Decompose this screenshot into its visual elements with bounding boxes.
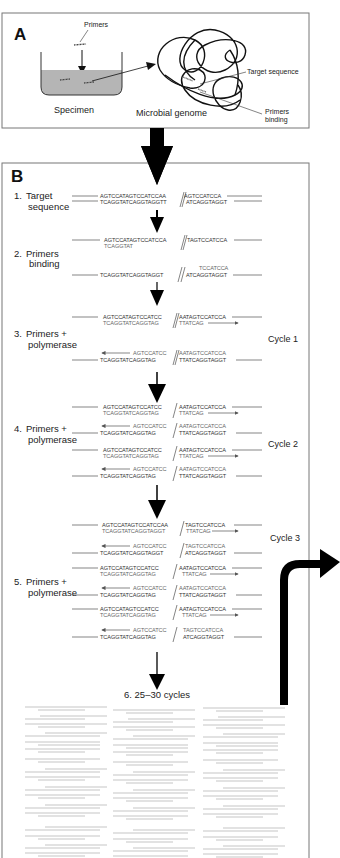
svg-text:TCAGGTATCAGGTAG: TCAGGTATCAGGTAG: [100, 473, 156, 479]
primers-label: Primers: [84, 21, 109, 28]
svg-text:ATCAGGTAGGT: ATCAGGTAGGT: [186, 199, 228, 205]
step-3-label: 3.: [14, 328, 22, 339]
svg-text:TTATCAGGTAGGT: TTATCAGGTAGGT: [179, 592, 227, 598]
svg-text:TCAGGTATCAGGTAG: TCAGGTATCAGGTAG: [100, 430, 156, 436]
step-6-label: 6. 25–30 cycles: [124, 689, 190, 700]
cycle-3-label: Cycle 3: [270, 533, 300, 543]
extension-duplex-rev: AGTCCATCC AATAGTCCATCCA TCAGGTATCAGGTAG …: [72, 350, 262, 365]
svg-text:TCAGGTATCAGGTAGGT: TCAGGTATCAGGTAGGT: [102, 528, 166, 534]
continue-arrow-head: [320, 549, 340, 578]
svg-text:TCAGGTATCAGGTAGGTT: TCAGGTATCAGGTAGGTT: [100, 199, 167, 205]
step-arrow: [150, 290, 164, 306]
svg-text:AGTCCATCC: AGTCCATCC: [133, 466, 167, 472]
svg-text:TTATCAG: TTATCAG: [179, 410, 204, 416]
svg-text:TTATCAGGTAGGT: TTATCAGGTAGGT: [179, 473, 227, 479]
step-4-label: Primers +: [26, 423, 67, 434]
cycle-1-label: Cycle 1: [268, 334, 298, 344]
svg-text:TCAGGTATCAGGTAG: TCAGGTATCAGGTAG: [103, 320, 159, 326]
svg-text:AATAGTCCATCCA: AATAGTCCATCCA: [179, 350, 226, 356]
primer-binding-duplex: AGTCCATAGTCCATCCA TAGTCCATCCA TCAGGTAT T…: [72, 235, 262, 282]
svg-text:TCAGGTATCAGGTAG: TCAGGTATCAGGTAG: [100, 592, 156, 598]
svg-text:TCAGGTATCAGGTAGGT: TCAGGTATCAGGTAGGT: [100, 272, 164, 278]
primers-binding-label: Primers: [265, 108, 290, 115]
svg-text:AATAGTCCATCCA: AATAGTCCATCCA: [179, 423, 226, 429]
target-duplex: AGTCCATAGTCCATCCAA AGTCCATCCA TCAGGTATCA…: [72, 192, 262, 207]
svg-text:TTATCAGGTAGGT: TTATCAGGTAGGT: [179, 357, 227, 363]
target-sequence-label: Target sequence: [247, 68, 299, 76]
step-2-label: 2.: [14, 248, 22, 259]
step-1-label: 1.: [14, 190, 22, 201]
svg-text:TTATCAG: TTATCAG: [179, 320, 204, 326]
break-mark: [180, 192, 184, 207]
svg-text:AGTCCATCC: AGTCCATCC: [133, 543, 167, 549]
step-5-label: 5.: [14, 576, 22, 587]
svg-text:TAGTCCATCCA: TAGTCCATCCA: [187, 237, 227, 243]
cycle-2-label: Cycle 2: [268, 439, 298, 449]
svg-text:TCAGGTATCAGGTAG: TCAGGTATCAGGTAG: [100, 612, 156, 618]
svg-text:TCAGGTATCAGGTAG: TCAGGTATCAGGTAG: [103, 453, 159, 459]
step-3-label: polymerase: [28, 339, 77, 350]
step-arrow: [148, 500, 166, 519]
step-3-label: Primers +: [26, 328, 67, 339]
svg-text:TAGTCCATCCA: TAGTCCATCCA: [185, 543, 225, 549]
step-1-label: Target: [26, 190, 53, 201]
svg-text:TCAGGTATCAGGTAG: TCAGGTATCAGGTAG: [100, 571, 156, 577]
step-4-label: 4.: [14, 423, 22, 434]
step-5-label: Primers +: [26, 576, 67, 587]
svg-text:TCAGGTATCAGGTAGGT: TCAGGTATCAGGTAGGT: [100, 550, 164, 556]
panel-a-label: A: [14, 25, 26, 44]
svg-text:AGTCCATCC: AGTCCATCC: [133, 627, 167, 633]
svg-text:TTATCAGGTAGGT: TTATCAGGTAGGT: [179, 430, 227, 436]
panel-b-label: B: [11, 167, 23, 186]
svg-text:TCAGGTATCAGGTAG: TCAGGTATCAGGTAG: [100, 357, 156, 363]
svg-text:ATCAGGTAGGT: ATCAGGTAGGT: [183, 634, 225, 640]
svg-text:TCCATCCA: TCCATCCA: [199, 265, 229, 271]
cycle-2-duplexes: AGTCCATAGTCCATCC AATAGTCCATCCA TCAGGTATC…: [72, 403, 262, 481]
step-4-label: polymerase: [28, 434, 77, 445]
svg-text:AATAGTCCATCCA: AATAGTCCATCCA: [179, 585, 226, 591]
svg-text:TTATCAG: TTATCAG: [182, 571, 207, 577]
step-arrow: [148, 384, 166, 403]
svg-text:TAGTCCATCCA: TAGTCCATCCA: [183, 627, 223, 633]
svg-text:TTATCAG: TTATCAG: [179, 453, 204, 459]
svg-text:TCAGGTATCAGGTAG: TCAGGTATCAGGTAG: [103, 410, 159, 416]
step-5-label: polymerase: [28, 587, 77, 598]
step-arrow: [149, 674, 165, 690]
svg-text:AGTCCATCC: AGTCCATCC: [133, 350, 167, 356]
step-2-label: binding: [29, 258, 60, 269]
svg-text:ATCAGGTAGGT: ATCAGGTAGGT: [185, 550, 227, 556]
svg-text:TTATCAG: TTATCAG: [186, 528, 211, 534]
primers-binding-label: binding: [265, 116, 288, 124]
step-1-label: sequence: [28, 201, 69, 212]
cycle-3-duplexes: AGTCCATAGTCCATCCAA TAGTCCATCCA TCAGGTATC…: [72, 521, 262, 642]
svg-text:TCAGGTATCAGGTAG: TCAGGTATCAGGTAG: [100, 634, 156, 640]
specimen-label: Specimen: [54, 105, 94, 115]
pcr-diagram: A Primers Specimen Target sequence: [0, 0, 340, 858]
amplified-products: [25, 707, 285, 858]
a-to-b-arrow-shaft: [150, 128, 164, 146]
panel-a: A Primers Specimen Target sequence: [2, 13, 309, 128]
panel-b: B 1. Target sequence AGTCCATAGTCCATCCAA …: [2, 146, 340, 858]
svg-text:AATAGTCCATCCA: AATAGTCCATCCA: [179, 466, 226, 472]
microbial-genome-label: Microbial genome: [136, 108, 207, 118]
svg-text:AGTCCATCC: AGTCCATCC: [133, 585, 167, 591]
svg-text:TTATCAG: TTATCAG: [182, 612, 207, 618]
svg-text:AGTCCATCC: AGTCCATCC: [133, 423, 167, 429]
step-arrow: [150, 217, 164, 233]
continue-arrow-icon: [284, 564, 322, 705]
beaker-liquid: [41, 70, 122, 95]
svg-text:TCAGGTAT: TCAGGTAT: [104, 243, 134, 249]
svg-text:ATCAGGTAGGT: ATCAGGTAGGT: [186, 272, 228, 278]
extension-duplex-fwd: AGTCCATAGTCCATCC AATAGTCCATCCA TCAGGTATC…: [72, 313, 262, 328]
